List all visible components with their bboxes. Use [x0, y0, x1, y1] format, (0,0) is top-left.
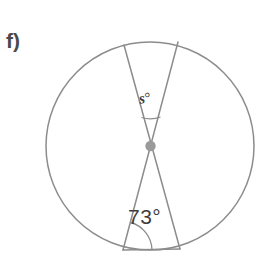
angle-label-73-value: 73: [128, 205, 152, 228]
degree-symbol-73: °: [152, 205, 161, 228]
angle-label-s: s°: [138, 89, 152, 108]
centre-point-dot: [145, 141, 155, 151]
angle-label-73: 73°: [128, 205, 161, 229]
